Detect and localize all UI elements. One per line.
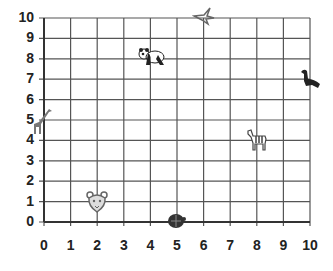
sea-lion-icon (298, 67, 322, 91)
x-tick-label: 2 (85, 237, 109, 253)
x-tick-label: 6 (192, 237, 216, 253)
y-tick-label: 7 (4, 70, 34, 86)
y-tick-label: 8 (4, 50, 34, 66)
y-tick-label: 6 (4, 91, 34, 107)
x-tick-label: 3 (112, 237, 136, 253)
y-tick-label: 1 (4, 193, 34, 209)
y-tick-label: 3 (4, 152, 34, 168)
x-tick-label: 0 (32, 237, 56, 253)
turtle-icon (165, 210, 187, 230)
giraffe-icon (32, 108, 54, 136)
x-tick-label: 8 (245, 237, 269, 253)
y-tick-label: 2 (4, 172, 34, 188)
zebra-icon (245, 128, 269, 152)
y-tick-label: 10 (4, 9, 34, 25)
x-tick-label: 5 (165, 237, 189, 253)
y-tick-label: 0 (4, 213, 34, 229)
bird-icon (192, 6, 216, 26)
x-tick-label: 10 (298, 237, 322, 253)
x-tick-label: 9 (271, 237, 295, 253)
x-tick-label: 4 (138, 237, 162, 253)
tiger-icon (85, 190, 109, 214)
x-tick-label: 1 (59, 237, 83, 253)
panda-icon (138, 47, 166, 67)
y-tick-label: 4 (4, 131, 34, 147)
y-tick-label: 5 (4, 111, 34, 127)
x-tick-label: 7 (218, 237, 242, 253)
y-tick-label: 9 (4, 29, 34, 45)
